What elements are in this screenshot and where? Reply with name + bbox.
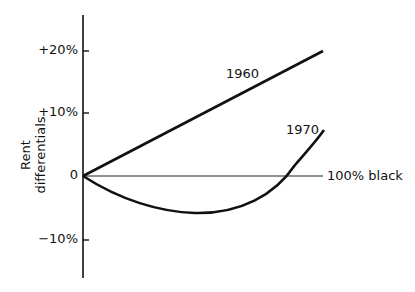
series-label-1960: 1960 <box>226 66 259 81</box>
tick-label-p20: +20% <box>18 42 78 57</box>
series-1970-line <box>83 130 324 213</box>
y-axis-label: Rent differentials <box>18 100 48 210</box>
series-1960-line <box>83 51 323 176</box>
series-label-1970: 1970 <box>286 122 319 137</box>
tick-label-m10: −10% <box>18 231 78 246</box>
reference-line-label: 100% black <box>327 168 403 183</box>
